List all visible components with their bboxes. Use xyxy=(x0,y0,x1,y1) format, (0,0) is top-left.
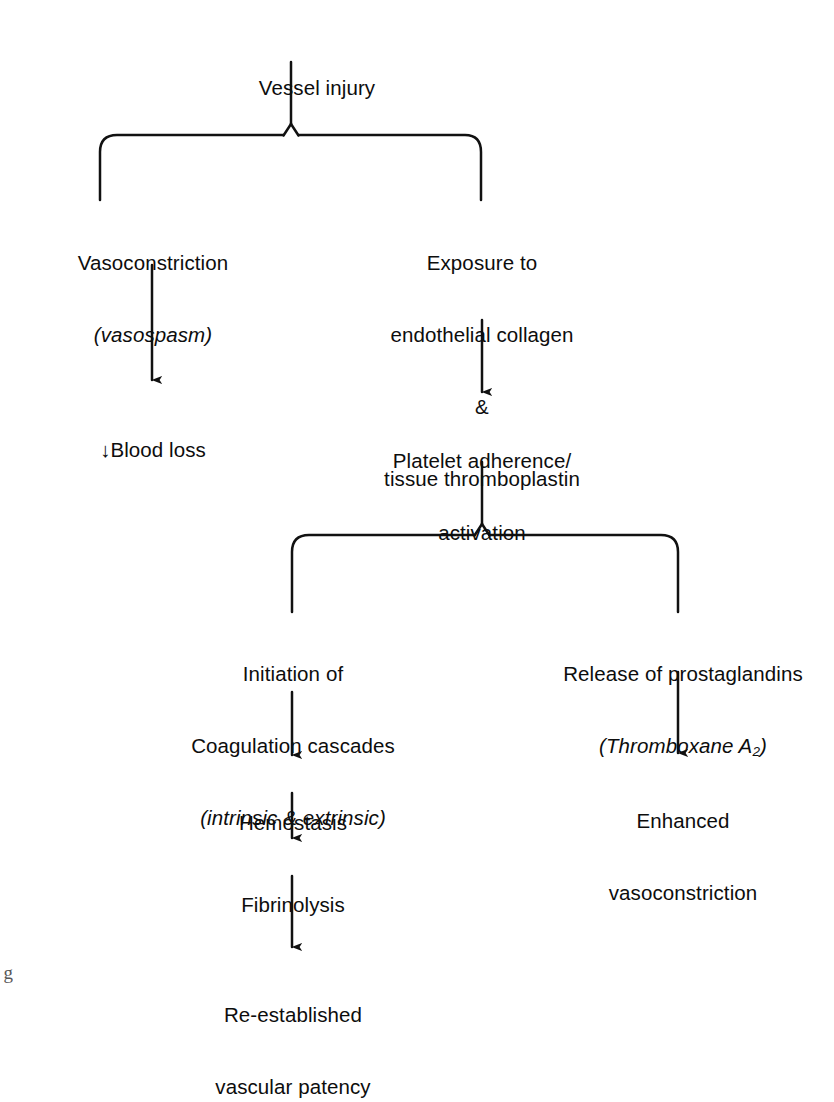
thromboxane-prefix: (Thromboxane A xyxy=(599,734,752,757)
node-vasoconstriction: Vasoconstriction (vasospasm) xyxy=(5,203,301,395)
node-vasoconstriction-line1: Vasoconstriction xyxy=(5,251,301,275)
node-enhanced-vasoconstriction-line2: vasoconstriction xyxy=(545,881,821,905)
node-reestablished-patency-line2: vascular patency xyxy=(172,1075,414,1099)
node-platelet-adherence-line1: Platelet adherence/ xyxy=(362,449,602,473)
node-initiation-coagulation-line2: Coagulation cascades xyxy=(152,734,434,758)
node-release-prostaglandins-line2: (Thromboxane A2) xyxy=(535,734,831,760)
node-hemostasis-line1: Hemostasis xyxy=(182,811,404,835)
node-fibrinolysis-line1: Fibrinolysis xyxy=(182,893,404,917)
node-enhanced-vasoconstriction: Enhanced vasoconstriction xyxy=(545,761,821,953)
node-exposure-line2: endothelial collagen xyxy=(342,323,622,347)
node-release-prostaglandins-line1: Release of prostaglandins xyxy=(535,662,831,686)
node-platelet-adherence-line2: activation xyxy=(362,521,602,545)
margin-caption-fragment: g xyxy=(0,962,13,984)
node-initiation-coagulation-line1: Initiation of xyxy=(152,662,434,686)
node-fibrinolysis: Fibrinolysis xyxy=(182,845,404,965)
node-exposure-line1: Exposure to xyxy=(342,251,622,275)
thromboxane-suffix: ) xyxy=(760,734,767,757)
node-blood-loss: ↓Blood loss xyxy=(5,390,301,510)
node-vessel-injury-line1: Vessel injury xyxy=(217,76,417,100)
node-vessel-injury: Vessel injury xyxy=(217,28,417,148)
thromboxane-subscript: 2 xyxy=(752,744,760,759)
node-platelet-adherence: Platelet adherence/ activation xyxy=(362,401,602,593)
node-reestablished-patency-line1: Re-established xyxy=(172,1003,414,1027)
node-blood-loss-line1: ↓Blood loss xyxy=(5,438,301,462)
node-reestablished-patency: Re-established vascular patency xyxy=(172,955,414,1102)
node-enhanced-vasoconstriction-line1: Enhanced xyxy=(545,809,821,833)
node-vasoconstriction-line2: (vasospasm) xyxy=(5,323,301,347)
